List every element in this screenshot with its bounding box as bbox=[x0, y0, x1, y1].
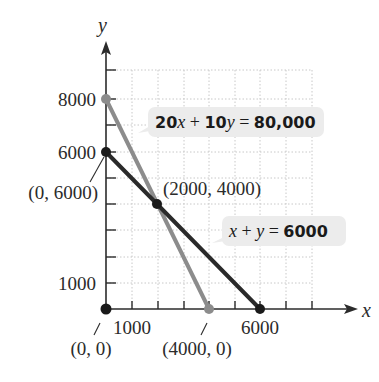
svg-text:x + y = 6000: x + y = 6000 bbox=[228, 221, 328, 241]
x-ticks bbox=[132, 301, 312, 309]
eq2-plus: + bbox=[237, 221, 256, 241]
point-0-6000 bbox=[101, 147, 111, 157]
point-origin bbox=[101, 304, 112, 315]
y-tick-label-8000: 8000 bbox=[58, 89, 96, 110]
label-point-0-6000: (0, 6000) bbox=[28, 182, 98, 204]
y-tick-label-6000: 6000 bbox=[58, 142, 96, 163]
x-tick-label-1000: 1000 bbox=[113, 317, 151, 338]
point-2000-4000 bbox=[152, 199, 162, 209]
label-point-4000-0: (4000, 0) bbox=[162, 338, 232, 360]
eq1-coef-y: 10 bbox=[204, 113, 226, 132]
label-point-2000-4000: (2000, 4000) bbox=[163, 178, 261, 200]
point-4000-0 bbox=[204, 304, 214, 314]
svg-text:20x + 10y = 80,000: 20x + 10y = 80,000 bbox=[155, 112, 316, 132]
y-axis-label: y bbox=[96, 14, 107, 37]
chart-canvas: y x 8000 6000 1000 1000 6000 (0, 6000) (… bbox=[0, 0, 379, 382]
eq2-rhs: 6000 bbox=[283, 222, 328, 241]
eq2-var-y: y bbox=[254, 221, 264, 241]
equation-callout-1: 20x + 10y = 80,000 bbox=[138, 107, 324, 137]
eq1-plus: + bbox=[185, 112, 204, 132]
eq1-var-y: y bbox=[225, 112, 235, 132]
point-6000-0 bbox=[255, 304, 265, 314]
eq2-equals: = bbox=[264, 221, 283, 241]
eq1-var-x: x bbox=[176, 112, 185, 132]
eq1-coef-x: 20 bbox=[155, 113, 177, 132]
y-tick-label-1000: 1000 bbox=[58, 273, 96, 294]
point-0-8000 bbox=[101, 94, 111, 104]
eq1-rhs: 80,000 bbox=[254, 113, 316, 132]
label-point-origin: (0, 0) bbox=[70, 338, 111, 360]
x-tick-label-6000: 6000 bbox=[241, 317, 279, 338]
equation-callout-2: x + y = 6000 bbox=[212, 216, 346, 246]
eq2-var-x: x bbox=[228, 221, 237, 241]
eq1-equals: = bbox=[235, 112, 254, 132]
x-axis-label: x bbox=[361, 299, 371, 321]
